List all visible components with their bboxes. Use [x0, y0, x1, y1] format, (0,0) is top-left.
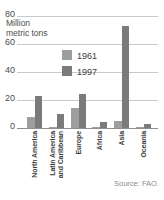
source-note: Source: FAO.	[114, 179, 159, 188]
legend-label-1961: 1961	[77, 51, 97, 61]
x-axis-label-4: Asia	[118, 131, 126, 185]
bar-1997-0	[35, 96, 43, 128]
y-tick-label-80: 80	[0, 10, 15, 19]
bar-1997-1	[57, 114, 65, 128]
bar-1961-2	[71, 108, 79, 128]
x-axis-label-3-line-0: Africa	[96, 131, 104, 185]
bar-1997-4	[122, 26, 130, 128]
x-axis-label-5-line-0: Oceania	[140, 131, 148, 185]
x-axis-label-0: North America	[31, 131, 39, 185]
gridline-60	[17, 44, 158, 45]
bar-1961-4	[114, 121, 122, 128]
y-tick-label-0: 0	[0, 122, 15, 131]
legend-swatch-1997	[62, 66, 72, 76]
x-axis-label-1-line-1: and Caribbean	[57, 131, 65, 185]
x-axis-label-0-line-0: North America	[31, 131, 39, 185]
x-axis-label-4-line-0: Asia	[118, 131, 126, 185]
x-axis-label-2: Europe	[75, 131, 83, 185]
legend-swatch-1961	[62, 50, 72, 60]
x-axis-label-3: Africa	[96, 131, 104, 185]
bar-chart: Million metric tons 020406080 19611997 N…	[0, 0, 164, 200]
legend-label-1997: 1997	[77, 67, 97, 77]
x-axis-label-5: Oceania	[140, 131, 148, 185]
bar-1961-0	[27, 117, 35, 128]
y-axis-title: Million metric tons	[6, 19, 48, 38]
gridline-80	[17, 16, 158, 17]
y-tick-label-20: 20	[0, 94, 15, 103]
x-axis-label-1-line-0: Latin America	[49, 131, 57, 185]
y-tick-label-40: 40	[0, 66, 15, 75]
x-axis-label-1: Latin Americaand Caribbean	[49, 131, 65, 185]
x-axis-baseline	[17, 128, 158, 129]
bar-1997-2	[79, 94, 87, 128]
x-axis-label-2-line-0: Europe	[75, 131, 83, 185]
y-tick-label-60: 60	[0, 38, 15, 47]
